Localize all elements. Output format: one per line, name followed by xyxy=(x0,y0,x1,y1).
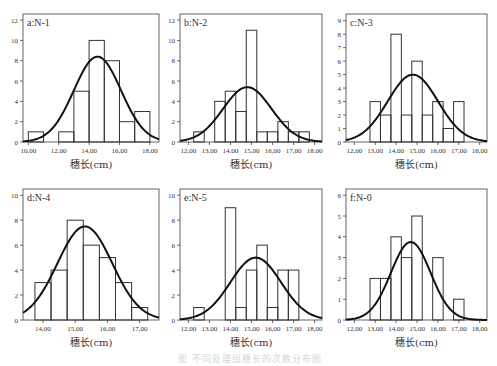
x-tick-label: 13,00 xyxy=(367,147,383,155)
y-tick-label: 9 xyxy=(338,17,342,25)
y-tick-label: 4 xyxy=(338,85,342,93)
y-tick-label: 8 xyxy=(172,217,176,225)
x-tick-label: 14,00 xyxy=(81,147,97,155)
x-axis-label: 穗长(cm) xyxy=(70,158,113,170)
x-axis-label: 穗长(cm) xyxy=(230,158,273,170)
y-tick-label: 2 xyxy=(15,292,19,300)
x-tick-label: 12,00 xyxy=(181,147,197,155)
y-tick-label: 4 xyxy=(338,233,342,241)
y-tick-label: 4 xyxy=(172,98,176,106)
x-tick-label: 15,00 xyxy=(409,147,425,155)
y-tick-label: 0 xyxy=(172,317,176,325)
y-tick-label: 4 xyxy=(15,267,19,275)
x-tick-label: 14,00 xyxy=(223,147,239,155)
x-tick-label: 10,00 xyxy=(20,147,36,155)
x-axis-label: 穗长(cm) xyxy=(70,336,113,348)
x-tick-label: 17,00 xyxy=(132,325,148,333)
y-tick-label: 6 xyxy=(15,78,19,86)
plot-frame xyxy=(23,189,159,320)
x-tick-label: 15,00 xyxy=(244,147,260,155)
y-tick-label: 6 xyxy=(15,242,19,250)
y-tick-label: 2 xyxy=(172,118,176,126)
x-tick-label: 15,00 xyxy=(244,325,260,333)
x-tick-label: 14,00 xyxy=(223,325,239,333)
x-tick-label: 17,00 xyxy=(286,325,302,333)
x-tick-label: 15,00 xyxy=(67,325,83,333)
y-tick-label: 2 xyxy=(15,118,19,126)
y-tick-label: 4 xyxy=(172,267,176,275)
x-tick-label: 12,00 xyxy=(51,147,67,155)
x-tick-label: 14,00 xyxy=(35,325,51,333)
y-tick-label: 0 xyxy=(338,139,342,147)
x-tick-label: 12,00 xyxy=(181,325,197,333)
x-tick-label: 18,00 xyxy=(307,325,323,333)
y-tick-label: 1 xyxy=(338,296,342,304)
x-tick-label: 14,00 xyxy=(388,147,404,155)
x-tick-label: 17,00 xyxy=(451,325,467,333)
x-tick-label: 14,00 xyxy=(388,325,404,333)
panel-title: e:N-5 xyxy=(184,192,207,203)
panel-d: 024681014,0015,0016,0017,00d:N-4穗长(cm) xyxy=(11,189,159,348)
y-tick-label: 2 xyxy=(338,275,342,283)
x-tick-label: 18,00 xyxy=(472,325,488,333)
plot-frame xyxy=(180,189,322,320)
x-tick-label: 16,00 xyxy=(112,147,128,155)
y-tick-label: 0 xyxy=(338,317,342,325)
panel-title: d:N-4 xyxy=(27,192,50,203)
y-tick-label: 8 xyxy=(15,57,19,65)
y-tick-label: 3 xyxy=(338,98,342,106)
y-tick-label: 2 xyxy=(338,112,342,120)
x-tick-label: 13,00 xyxy=(367,325,383,333)
x-tick-label: 18,00 xyxy=(142,147,158,155)
panel-b: 02468101212,0013,0014,0015,0016,0017,001… xyxy=(168,14,323,170)
y-tick-label: 1 xyxy=(338,125,342,133)
y-tick-label: 12 xyxy=(11,17,19,25)
y-tick-label: 10 xyxy=(168,192,176,200)
x-axis-label: 穗长(cm) xyxy=(395,158,438,170)
y-tick-label: 6 xyxy=(338,192,342,200)
plot-frame xyxy=(180,14,322,142)
y-tick-label: 0 xyxy=(172,139,176,147)
x-tick-label: 13,00 xyxy=(202,147,218,155)
histogram-figure: 02468101210,0012,0014,0016,0018,00a:N-1穗… xyxy=(0,0,497,366)
x-tick-label: 15,00 xyxy=(409,325,425,333)
y-tick-label: 4 xyxy=(15,98,19,106)
y-tick-label: 3 xyxy=(338,254,342,262)
figure-caption: 图 不同处理组穗长的次数分布图 xyxy=(130,352,370,362)
panel-c: 012345678912,0013,0014,0015,0016,0017,00… xyxy=(338,14,489,170)
y-tick-label: 2 xyxy=(172,292,176,300)
y-tick-label: 8 xyxy=(15,217,19,225)
panel-f: 012345612,0013,0014,0015,0016,0017,0018,… xyxy=(338,189,489,348)
y-tick-label: 8 xyxy=(338,31,342,39)
x-tick-label: 16,00 xyxy=(100,325,116,333)
y-tick-label: 0 xyxy=(15,317,19,325)
y-tick-label: 7 xyxy=(338,44,342,52)
x-tick-label: 17,00 xyxy=(451,147,467,155)
y-tick-label: 10 xyxy=(11,37,19,45)
panel-title: f:N-0 xyxy=(350,192,372,203)
y-tick-label: 0 xyxy=(15,139,19,147)
x-axis-label: 穗长(cm) xyxy=(395,336,438,348)
x-tick-label: 16,00 xyxy=(430,325,446,333)
x-tick-label: 16,00 xyxy=(265,325,281,333)
x-tick-label: 13,00 xyxy=(202,325,218,333)
x-tick-label: 18,00 xyxy=(307,147,323,155)
x-tick-label: 18,00 xyxy=(472,147,488,155)
x-tick-label: 16,00 xyxy=(265,147,281,155)
x-tick-label: 12,00 xyxy=(346,325,362,333)
y-tick-label: 5 xyxy=(338,213,342,221)
panel-a: 02468101210,0012,0014,0016,0018,00a:N-1穗… xyxy=(11,14,159,170)
y-tick-label: 5 xyxy=(338,71,342,79)
plot-frame xyxy=(346,189,487,320)
panel-title: a:N-1 xyxy=(27,17,50,28)
x-tick-label: 12,00 xyxy=(346,147,362,155)
x-tick-label: 17,00 xyxy=(286,147,302,155)
y-tick-label: 12 xyxy=(168,17,176,25)
y-tick-label: 10 xyxy=(11,192,19,200)
y-tick-label: 6 xyxy=(172,242,176,250)
panel-title: b:N-2 xyxy=(184,17,207,28)
y-tick-label: 6 xyxy=(172,78,176,86)
panel-e: 024681012,0013,0014,0015,0016,0017,0018,… xyxy=(168,189,323,348)
panel-title: c:N-3 xyxy=(350,17,373,28)
plot-frame xyxy=(346,14,487,142)
